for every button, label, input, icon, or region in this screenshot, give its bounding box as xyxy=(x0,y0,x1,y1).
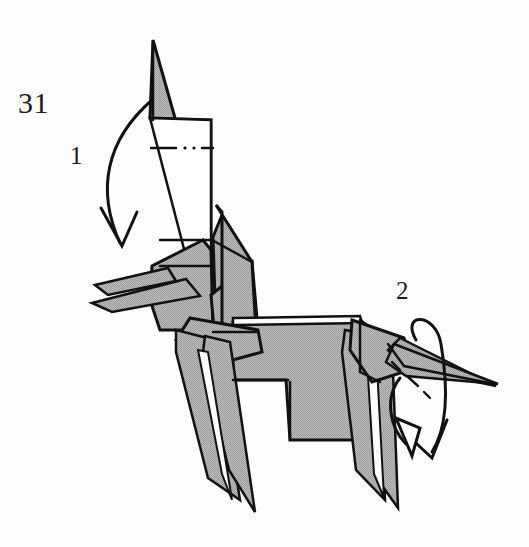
fold-label-1: 1 xyxy=(70,143,83,168)
shoulder-panel xyxy=(216,205,256,332)
fold-label-2: 2 xyxy=(396,278,409,303)
fold-arrow-1-head xyxy=(101,208,137,246)
step-number-label: 31 xyxy=(18,88,49,118)
origami-figure-canvas xyxy=(0,0,529,547)
fold-arrow-1-curve xyxy=(107,100,152,243)
back-ridge xyxy=(233,316,362,325)
origami-diagram: 31 1 2 xyxy=(0,0,529,547)
fold-arrow-1 xyxy=(101,100,152,246)
